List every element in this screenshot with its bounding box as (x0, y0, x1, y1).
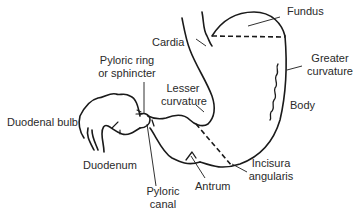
label-pyloric-canal-line2: canal (143, 198, 183, 211)
esophagus-left-wall (202, 12, 212, 46)
label-pyloric-ring-line2: or sphincter (95, 67, 159, 80)
pylorus-mark (152, 120, 154, 126)
pyloric-canal-leader (147, 124, 156, 186)
stomach-diagram: Fundus Cardia Pyloric ring or sphincter … (0, 0, 357, 218)
label-body: Body (290, 99, 315, 112)
incisura-boundary-dashed (196, 124, 232, 166)
greater-curvature-leader (287, 66, 302, 70)
label-antrum: Antrum (195, 180, 230, 193)
label-incisura-angularis-line2: angularis (243, 170, 299, 183)
duodenum-inner (102, 125, 140, 152)
antrum-leader (191, 156, 205, 178)
label-incisura-angularis-line1: Incisura (245, 157, 297, 170)
label-lesser-curvature-line1: Lesser (158, 82, 208, 95)
duodenal-bulb-outline (79, 94, 140, 138)
label-duodenum: Duodenum (83, 159, 137, 172)
label-greater-curvature-line2: curvature (302, 65, 357, 78)
fundus-boundary-dashed (212, 36, 285, 37)
fundus-leader (248, 17, 280, 26)
label-fundus: Fundus (287, 5, 324, 18)
cardia-leader (196, 39, 206, 46)
pylorus-outline (140, 113, 150, 128)
label-cardia: Cardia (152, 36, 184, 49)
label-duodenal-bulb: Duodenal bulb (7, 116, 78, 129)
label-lesser-curvature-line2: curvature (156, 95, 212, 108)
greater-curvature-rugae (270, 64, 278, 120)
label-greater-curvature-line1: Greater (303, 52, 357, 65)
label-pyloric-ring-line1: Pyloric ring (97, 54, 157, 67)
label-pyloric-canal-line1: Pyloric (143, 185, 183, 198)
fundus-outline (212, 12, 285, 36)
